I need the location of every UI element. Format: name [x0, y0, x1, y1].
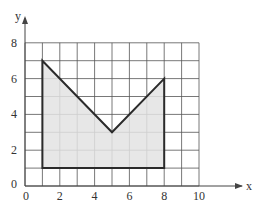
chart-canvas: 024681002468 x y	[0, 0, 253, 206]
y-tick-label: 0	[11, 177, 17, 191]
x-tick-label: 0	[23, 189, 29, 203]
x-tick-label: 10	[193, 189, 205, 203]
x-tick-label: 2	[57, 189, 63, 203]
y-tick-label: 4	[11, 107, 17, 121]
y-tick-label: 6	[11, 72, 17, 86]
x-axis-arrow-icon	[235, 183, 243, 189]
x-axis-label: x	[246, 179, 252, 193]
y-tick-label: 2	[11, 143, 17, 157]
x-tick-label: 8	[161, 189, 167, 203]
x-tick-label: 4	[92, 189, 98, 203]
y-axis-label: y	[15, 9, 21, 23]
y-axis-arrow-icon	[22, 16, 28, 24]
y-tick-label: 8	[11, 36, 17, 50]
x-tick-label: 6	[126, 189, 132, 203]
